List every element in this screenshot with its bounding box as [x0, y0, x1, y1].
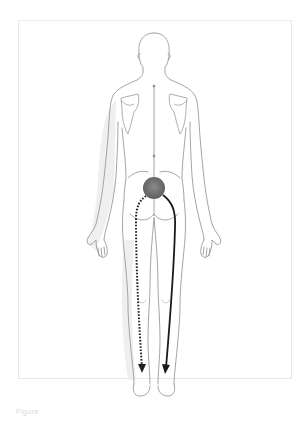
- dotted-referral-path: [136, 196, 146, 368]
- body-diagram: [0, 0, 308, 423]
- solid-referral-path: [163, 195, 175, 368]
- pain-focus-circle: [143, 177, 165, 199]
- dotted-arrowhead-icon: [138, 364, 146, 373]
- body-shadow: [88, 100, 136, 380]
- figure-caption: Figure: [16, 408, 39, 415]
- solid-arrowhead-icon: [162, 364, 170, 374]
